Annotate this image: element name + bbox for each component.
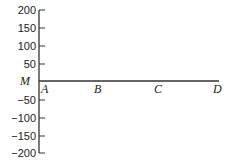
tick-label-neg50: −50 <box>17 94 36 106</box>
tick-label-neg100: −100 <box>11 112 36 124</box>
point-label-c: C <box>154 82 163 96</box>
tick-label-200: 200 <box>18 4 36 16</box>
tick-label-100: 100 <box>18 40 36 52</box>
moment-diagram-chart: 200 150 100 50 −50 −100 −150 −200 M A B … <box>0 0 231 165</box>
y-axis-label-m: M <box>19 74 31 88</box>
tick-label-neg150: −150 <box>11 130 36 142</box>
point-label-b: B <box>94 82 102 96</box>
tick-label-50: 50 <box>24 58 36 70</box>
point-label-d: D <box>212 82 222 96</box>
tick-label-150: 150 <box>18 22 36 34</box>
point-label-a: A <box>40 82 49 96</box>
tick-label-neg200: −200 <box>11 147 36 159</box>
